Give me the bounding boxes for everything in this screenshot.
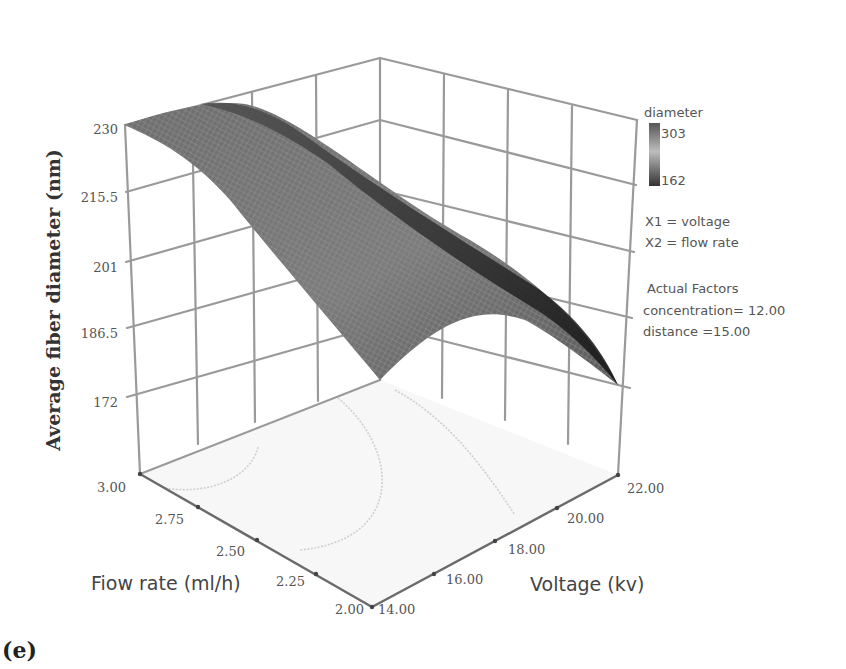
legend-title: diameter <box>644 105 704 120</box>
voltage-tick: 14.00 <box>378 602 415 617</box>
color-legend: diameter 303 162 <box>644 105 704 188</box>
voltage-tick: 16.00 <box>446 572 483 587</box>
flow-tick: 2.00 <box>335 602 364 617</box>
legend-max: 303 <box>661 126 686 141</box>
panel-label: (e) <box>2 637 37 663</box>
concentration-factor: concentration= 12.00 <box>643 303 785 318</box>
z-tick: 186.5 <box>81 326 118 341</box>
z-tick: 172 <box>93 395 118 410</box>
x2-definition: X2 = flow rate <box>645 235 739 250</box>
z-axis-ticks: 230 215.5 201 186.5 172 <box>81 122 118 410</box>
z-tick: 215.5 <box>81 190 118 205</box>
legend-min: 162 <box>661 173 686 188</box>
factor-notes: X1 = voltage X2 = flow rate Actual Facto… <box>643 214 785 339</box>
z-tick: 230 <box>93 122 118 137</box>
flow-tick: 2.75 <box>155 512 184 527</box>
voltage-tick: 20.00 <box>567 511 604 526</box>
response-surface-plot: 230 215.5 201 186.5 172 Average fiber di… <box>0 0 846 669</box>
distance-factor: distance =15.00 <box>643 324 750 339</box>
x1-definition: X1 = voltage <box>645 214 730 229</box>
voltage-tick: 22.00 <box>627 481 664 496</box>
z-tick: 201 <box>93 260 118 275</box>
voltage-tick: 18.00 <box>508 542 545 557</box>
voltage-axis-title: Voltage (kv) <box>530 573 644 595</box>
legend-colorbar <box>649 123 660 186</box>
flow-rate-axis-title: Fiow rate (ml/h) <box>91 572 241 594</box>
z-axis-title: Average fiber diameter (nm) <box>42 149 64 452</box>
flow-tick: 2.25 <box>276 574 305 589</box>
flow-tick: 3.00 <box>97 480 126 495</box>
response-surface <box>124 103 618 385</box>
actual-factors-title: Actual Factors <box>647 281 739 296</box>
flow-tick: 2.50 <box>216 544 245 559</box>
